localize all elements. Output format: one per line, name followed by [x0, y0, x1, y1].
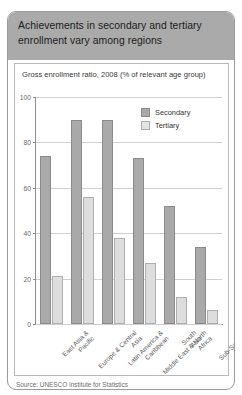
y-tick-label: 60 — [23, 184, 31, 191]
figure-card: Achievements in secondary and tertiary e… — [7, 11, 235, 390]
bar-tertiary[interactable] — [145, 263, 156, 324]
figure-header-band: Achievements in secondary and tertiary e… — [8, 12, 234, 60]
source-note: Source: UNESCO Institute for Statistics — [16, 381, 128, 388]
y-tick-label: 0 — [27, 321, 31, 328]
y-tick-label: 80 — [23, 139, 31, 146]
bar-group: East Asia &Pacific — [36, 97, 67, 324]
bar-tertiary[interactable] — [176, 297, 187, 324]
y-tick-mark — [33, 324, 36, 325]
bar-group: Middle East & NorthAfrica — [129, 97, 160, 324]
gridline — [36, 324, 222, 325]
plot-area: 100806040200 East Asia &PacificEurope & … — [36, 97, 222, 324]
bar-group: SouthAsia — [160, 97, 191, 324]
bar-secondary[interactable] — [195, 247, 206, 324]
bar-secondary[interactable] — [71, 120, 82, 324]
bar-tertiary[interactable] — [114, 238, 125, 324]
y-tick-label: 100 — [20, 94, 31, 101]
bar-group: Sub-SaharanAfrica — [191, 97, 222, 324]
figure-title: Achievements in secondary and tertiary e… — [18, 19, 226, 48]
bar-tertiary[interactable] — [207, 310, 218, 324]
y-tick-label: 40 — [23, 230, 31, 237]
x-axis-category-label: East Asia &Pacific — [60, 329, 95, 364]
chart-subtitle: Gross enrollment ratio, 2008 (% of relev… — [22, 70, 206, 79]
y-tick-label: 20 — [23, 275, 31, 282]
bar-group: Europe & CentralAsia — [67, 97, 98, 324]
bar-secondary[interactable] — [102, 120, 113, 324]
bar-tertiary[interactable] — [83, 197, 94, 324]
bar-secondary[interactable] — [133, 158, 144, 324]
bar-secondary[interactable] — [164, 206, 175, 324]
chart-panel: Gross enrollment ratio, 2008 (% of relev… — [14, 63, 229, 376]
bar-secondary[interactable] — [40, 156, 51, 324]
bar-tertiary[interactable] — [52, 276, 63, 324]
bar-group: Latin America &Caribbean — [98, 97, 129, 324]
x-axis-category-label: Sub-SaharanAfrica — [217, 329, 235, 367]
